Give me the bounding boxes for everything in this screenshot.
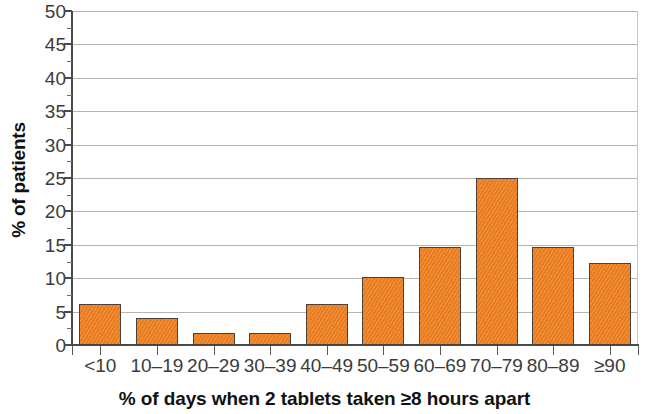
y-axis-tick-label: 40 <box>45 68 66 87</box>
y-axis-major-tick <box>64 10 72 12</box>
y-axis-tick-label: 25 <box>45 169 66 188</box>
x-axis-tick <box>327 346 328 355</box>
y-axis-major-tick <box>64 311 72 313</box>
bar <box>419 247 461 345</box>
bar <box>249 333 291 345</box>
y-axis-tick-label: 20 <box>45 202 66 221</box>
y-axis-title-text: % of patients <box>8 122 30 238</box>
y-axis-major-tick <box>64 244 72 246</box>
y-axis-tick-label: 35 <box>45 102 66 121</box>
x-axis-tick <box>553 346 554 355</box>
x-axis-tick <box>638 346 639 355</box>
x-axis-tick-labels: <1010–1920–2930–3940–4950–5960–6970–7980… <box>72 356 638 382</box>
x-axis-tick <box>497 346 498 355</box>
x-axis-tick <box>440 346 441 355</box>
x-axis-tick <box>610 346 611 355</box>
x-axis-tick <box>100 346 101 355</box>
x-axis-tick-label: 50–59 <box>357 356 410 377</box>
y-axis-tick-label: 15 <box>45 235 66 254</box>
x-axis-title: % of days when 2 tablets taken ≥8 hours … <box>0 388 649 410</box>
bar <box>306 304 348 345</box>
bar <box>362 277 404 345</box>
x-axis-tick-label: 80–89 <box>527 356 580 377</box>
y-axis-tick-label: 50 <box>45 2 66 21</box>
y-axis-major-tick <box>64 110 72 112</box>
bar <box>589 263 631 345</box>
x-axis-tick <box>383 346 384 355</box>
x-axis-tick-label: <10 <box>84 356 116 377</box>
x-axis-tick-label: 60–69 <box>413 356 466 377</box>
bar <box>136 318 178 345</box>
bar <box>476 178 518 345</box>
bar <box>532 247 574 345</box>
y-axis-tick-label: 10 <box>45 269 66 288</box>
y-axis-major-tick <box>64 77 72 79</box>
x-axis-tick <box>157 346 158 355</box>
y-axis-major-tick <box>64 344 72 346</box>
x-axis-tick-label: 30–39 <box>244 356 297 377</box>
y-axis-major-tick <box>64 43 72 45</box>
bar <box>79 304 121 345</box>
y-axis-tick-labels: 05101520253035404550 <box>30 11 66 345</box>
y-axis-major-tick <box>64 277 72 279</box>
y-axis-major-tick <box>64 177 72 179</box>
bar-series <box>72 11 638 345</box>
bar <box>193 333 235 345</box>
y-axis-major-tick <box>64 144 72 146</box>
y-axis-major-tick <box>64 210 72 212</box>
x-axis-tick-label: 20–29 <box>187 356 240 377</box>
x-axis-tick-label: 10–19 <box>130 356 183 377</box>
y-axis-tick-label: 30 <box>45 135 66 154</box>
y-axis-tick-label: 45 <box>45 35 66 54</box>
bar-chart-figure: % of patients 05101520253035404550 <1010… <box>0 0 649 414</box>
x-axis-tick <box>72 346 73 355</box>
x-axis-tick-label: 40–49 <box>300 356 353 377</box>
x-axis-tick <box>214 346 215 355</box>
x-axis-tick <box>270 346 271 355</box>
x-axis-tick-label: ≥90 <box>594 356 626 377</box>
x-axis-tick-label: 70–79 <box>470 356 523 377</box>
